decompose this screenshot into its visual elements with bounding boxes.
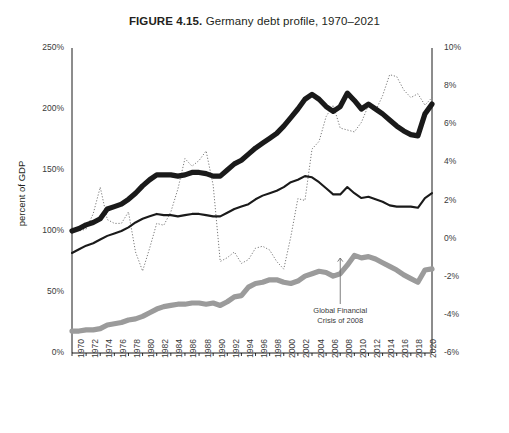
- series-thick-black: [72, 93, 432, 231]
- x-tick: 2016: [400, 339, 410, 358]
- series-thin-black: [72, 176, 432, 253]
- figure-container: FIGURE 4.15. Germany debt profile, 1970–…: [0, 0, 509, 433]
- y-tick-right: 10%: [444, 42, 484, 52]
- gfc-annotation-line1: Global Financial: [290, 306, 390, 316]
- series-dotted: [72, 75, 432, 271]
- x-tick: 2006: [330, 339, 340, 358]
- y-tick-right: -6%: [444, 347, 484, 357]
- x-tick: 2008: [344, 339, 354, 358]
- x-tick: 2018: [414, 339, 424, 358]
- x-tick: 1998: [273, 339, 283, 358]
- plot-area: [0, 0, 509, 433]
- x-tick: 1974: [104, 339, 114, 358]
- x-tick: 1978: [132, 339, 142, 358]
- x-tick: 2020: [428, 339, 438, 358]
- gfc-annotation: Global Financial Crisis of 2008: [290, 306, 390, 326]
- figure-title: FIGURE 4.15. Germany debt profile, 1970–…: [0, 15, 509, 27]
- y-tick-right: 6%: [444, 118, 484, 128]
- x-tick: 1980: [146, 339, 156, 358]
- y-tick-left: 250%: [24, 42, 64, 52]
- gfc-annotation-line2: Crisis of 2008: [290, 316, 390, 326]
- gfc-arrow: [338, 258, 343, 304]
- y-tick-left: 50%: [24, 286, 64, 296]
- x-tick: 2012: [372, 339, 382, 358]
- x-tick: 1984: [174, 339, 184, 358]
- figure-title-text: Germany debt profile, 1970–2021: [202, 15, 380, 27]
- x-tick: 1982: [160, 339, 170, 358]
- x-tick: 1976: [118, 339, 128, 358]
- x-tick: 1996: [259, 339, 269, 358]
- x-tick: 2000: [287, 339, 297, 358]
- x-tick: 1972: [90, 339, 100, 358]
- x-tick: 2002: [301, 339, 311, 358]
- y-tick-right: -2%: [444, 271, 484, 281]
- y-tick-right: -4%: [444, 309, 484, 319]
- y-tick-left: 150%: [24, 164, 64, 174]
- x-tick: 2010: [358, 339, 368, 358]
- x-tick: 1970: [76, 339, 86, 358]
- y-tick-right: 8%: [444, 80, 484, 90]
- y-tick-right: 2%: [444, 195, 484, 205]
- x-tick: 2014: [386, 339, 396, 358]
- y-tick-right: 4%: [444, 156, 484, 166]
- figure-number: FIGURE 4.15.: [129, 15, 202, 27]
- y-tick-right: 0%: [444, 233, 484, 243]
- y-tick-left: 200%: [24, 103, 64, 113]
- x-tick: 1994: [245, 339, 255, 358]
- x-tick: 2004: [316, 339, 326, 358]
- x-tick: 1992: [231, 339, 241, 358]
- y-tick-left: 100%: [24, 225, 64, 235]
- x-tick: 1986: [188, 339, 198, 358]
- x-tick: 1988: [203, 339, 213, 358]
- y-tick-left: 0%: [24, 347, 64, 357]
- x-tick: 1990: [217, 339, 227, 358]
